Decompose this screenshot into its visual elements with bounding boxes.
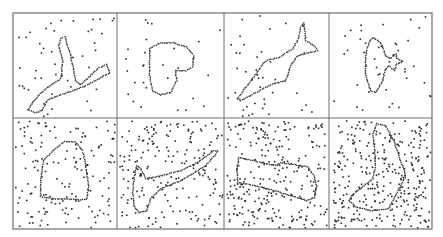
noise-dot bbox=[99, 18, 101, 20]
noise-dot bbox=[76, 148, 78, 150]
contour-dot bbox=[83, 157, 84, 158]
contour-dot bbox=[351, 195, 352, 196]
noise-dot bbox=[426, 147, 428, 149]
noise-dot bbox=[284, 161, 286, 163]
noise-dot bbox=[344, 35, 346, 37]
noise-dot bbox=[347, 50, 349, 52]
contour-dot bbox=[73, 69, 74, 70]
contour-dot bbox=[189, 51, 190, 52]
contour-dot bbox=[90, 82, 91, 83]
noise-dot bbox=[65, 158, 67, 160]
noise-dot bbox=[306, 175, 308, 177]
noise-dot bbox=[208, 218, 210, 220]
contour-dot bbox=[395, 145, 396, 146]
noise-dot bbox=[352, 140, 354, 142]
noise-dot bbox=[171, 161, 173, 163]
noise-dot bbox=[78, 200, 80, 202]
contour-dot bbox=[366, 79, 367, 80]
contour-dot bbox=[82, 150, 83, 151]
contour-dot bbox=[40, 178, 41, 179]
contour-dot bbox=[281, 193, 282, 194]
contour-dot bbox=[55, 96, 56, 97]
noise-dot bbox=[407, 204, 409, 206]
contour-dot bbox=[205, 165, 206, 166]
noise-dot bbox=[54, 30, 56, 32]
contour-dot bbox=[389, 134, 390, 135]
noise-dot bbox=[339, 132, 341, 134]
contour-dot bbox=[44, 89, 45, 90]
noise-dot bbox=[404, 211, 406, 213]
noise-dot bbox=[152, 223, 154, 225]
noise-dot bbox=[90, 190, 92, 192]
contour-dot bbox=[151, 86, 152, 87]
contour-dot bbox=[395, 53, 396, 54]
contour-dot bbox=[254, 76, 255, 77]
noise-dot bbox=[379, 218, 381, 220]
contour-dot bbox=[372, 210, 373, 211]
noise-dot bbox=[418, 27, 420, 29]
noise-dot bbox=[308, 135, 310, 137]
noise-dot bbox=[253, 177, 255, 179]
noise-dot bbox=[252, 113, 254, 115]
contour-dot bbox=[149, 67, 150, 68]
noise-dot bbox=[402, 186, 404, 188]
contour-dot bbox=[49, 197, 50, 198]
contour-dot bbox=[257, 186, 258, 187]
noise-dot bbox=[99, 180, 101, 182]
noise-dot bbox=[259, 208, 261, 210]
noise-dot bbox=[242, 207, 244, 209]
noise-dot bbox=[30, 137, 32, 139]
noise-dot bbox=[374, 194, 376, 196]
contour-dot bbox=[304, 27, 305, 28]
noise-dot bbox=[365, 198, 367, 200]
contour-dot bbox=[161, 93, 162, 94]
noise-dot bbox=[199, 157, 201, 159]
contour-dot bbox=[82, 199, 83, 200]
noise-dot bbox=[276, 147, 278, 149]
noise-dot bbox=[346, 193, 348, 195]
noise-dot bbox=[269, 28, 271, 30]
noise-dot bbox=[43, 48, 45, 50]
noise-dot bbox=[305, 104, 307, 106]
contour-dot bbox=[375, 125, 376, 126]
noise-dot bbox=[32, 222, 34, 224]
contour-dot bbox=[378, 124, 379, 125]
noise-dot bbox=[394, 169, 396, 171]
contour-dot bbox=[386, 56, 387, 57]
contour-dot bbox=[141, 169, 142, 170]
contour-dot bbox=[286, 76, 287, 77]
noise-dot bbox=[298, 158, 300, 160]
noise-dot bbox=[268, 192, 270, 194]
contour-dot bbox=[262, 162, 263, 163]
noise-dot bbox=[127, 49, 129, 51]
noise-dot bbox=[175, 178, 177, 180]
noise-dot bbox=[316, 145, 318, 147]
contour-dot bbox=[245, 183, 246, 184]
contour-dot bbox=[209, 154, 210, 155]
contour-dot bbox=[32, 102, 33, 103]
noise-dot bbox=[361, 158, 363, 160]
contour-dot bbox=[372, 176, 373, 177]
noise-dot bbox=[344, 165, 346, 167]
contour-dot bbox=[312, 44, 313, 45]
contour-dot bbox=[399, 157, 400, 158]
noise-dot bbox=[411, 164, 413, 166]
contour-dot bbox=[88, 187, 89, 188]
noise-dot bbox=[384, 159, 386, 161]
noise-dot bbox=[366, 225, 368, 227]
noise-dot bbox=[203, 106, 205, 108]
noise-dot bbox=[410, 225, 412, 227]
noise-dot bbox=[289, 227, 291, 229]
noise-dot bbox=[379, 214, 381, 216]
noise-dot bbox=[228, 214, 230, 216]
noise-dot bbox=[359, 140, 361, 142]
contour-dot bbox=[255, 161, 256, 162]
contour-dot bbox=[380, 42, 381, 43]
noise-dot bbox=[371, 122, 373, 124]
panel-rectangle-shape-contour bbox=[236, 157, 318, 201]
noise-dot bbox=[411, 157, 413, 159]
contour-dot bbox=[86, 197, 87, 198]
contour-dot bbox=[203, 158, 204, 159]
contour-dot bbox=[61, 55, 62, 56]
noise-dot bbox=[133, 101, 135, 103]
